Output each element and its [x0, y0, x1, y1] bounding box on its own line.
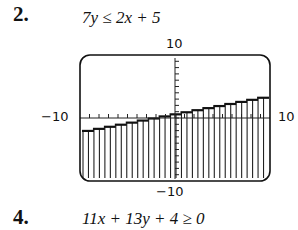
- problem-4-number: 4.: [13, 205, 29, 230]
- calculator-graph: [0, 0, 298, 230]
- problem-4-inequality: 11x + 13y + 4 ≥ 0: [82, 209, 205, 229]
